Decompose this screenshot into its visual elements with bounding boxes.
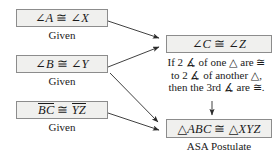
congruent-symbol: ≅: [211, 121, 228, 137]
congruent-symbol: ≅: [53, 10, 70, 26]
third-angle-c-left: ∠C: [192, 36, 211, 52]
third-angle-c-right: ∠Z: [228, 36, 246, 52]
congruent-symbol: ≅: [54, 102, 71, 118]
congruent-symbol: ≅: [211, 36, 228, 52]
arrow-a-to-c: [108, 21, 159, 38]
theorem-line-2: to 2 ∡ of another △,: [158, 69, 275, 82]
theorem-line-1: If 2 ∡ of one △ are ≅: [158, 56, 275, 69]
conclusion-triangles-box: △ABC≅△XYZ: [166, 119, 272, 138]
given-angle-a-right: ∠X: [71, 10, 90, 26]
theorem-line-3: then the 3rd ∡ are ≅.: [158, 81, 275, 94]
arrow-bc-to-conclusion: [108, 113, 159, 130]
segment-bc: BC: [38, 103, 54, 117]
given-angle-a-reason: Given: [16, 29, 108, 41]
conclusion-right: △XYZ: [229, 121, 261, 137]
given-angle-b-box: ∠B≅∠Y: [16, 55, 108, 73]
conclusion-reason: ASA Postulate: [160, 140, 275, 152]
congruent-symbol: ≅: [54, 56, 71, 72]
arrow-b-to-c: [108, 47, 159, 67]
given-angle-b-right: ∠Y: [71, 56, 89, 72]
conclusion-left: △ABC: [177, 121, 211, 137]
given-segment-bc-box: BC≅YZ: [16, 101, 108, 119]
arrow-b-to-conclusion: [110, 73, 158, 122]
third-angle-theorem-text: If 2 ∡ of one △ are ≅ to 2 ∡ of another …: [158, 56, 275, 94]
segment-yz: YZ: [72, 103, 86, 117]
given-segment-bc-reason: Given: [16, 121, 108, 133]
given-angle-b-left: ∠B: [35, 56, 54, 72]
given-angle-b-reason: Given: [16, 75, 108, 87]
flow-proof-diagram: ∠A≅∠X Given ∠B≅∠Y Given BC≅YZ Given ∠C≅∠…: [0, 0, 275, 162]
third-angle-c-box: ∠C≅∠Z: [166, 35, 272, 53]
given-angle-a-left: ∠A: [35, 10, 54, 26]
given-angle-a-box: ∠A≅∠X: [16, 9, 108, 27]
